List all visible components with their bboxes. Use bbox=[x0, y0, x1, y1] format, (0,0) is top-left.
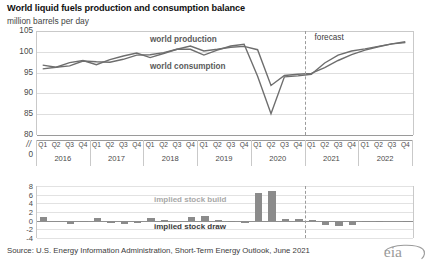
bar bbox=[349, 221, 357, 225]
bar bbox=[241, 221, 249, 223]
bar-chart: implied stock build implied stock draw bbox=[36, 186, 412, 238]
bar bbox=[94, 218, 102, 221]
gridline bbox=[37, 212, 413, 213]
bar bbox=[295, 219, 303, 221]
x-tick-quarter: Q4 bbox=[76, 141, 89, 148]
bar-y-tick-label: -4 bbox=[3, 234, 33, 243]
bar bbox=[147, 218, 155, 221]
stock-build-label: implied stock build bbox=[154, 195, 226, 204]
bar bbox=[40, 217, 48, 221]
x-tick-quarter: Q3 bbox=[63, 141, 76, 148]
bar-y-tick-label: 6 bbox=[3, 191, 33, 200]
x-tick-quarter: Q4 bbox=[130, 141, 143, 148]
y-tick-label: 100 bbox=[3, 47, 33, 56]
x-tick-quarter: Q1 bbox=[305, 141, 318, 148]
x-tick-quarter: Q1 bbox=[143, 141, 156, 148]
stock-draw-label: implied stock draw bbox=[154, 222, 226, 231]
chart-page: World liquid fuels production and consum… bbox=[0, 0, 436, 269]
bar-y-tick-label: 0 bbox=[3, 217, 33, 226]
x-tick-quarter: Q1 bbox=[251, 141, 264, 148]
x-tick-quarter: Q1 bbox=[36, 141, 49, 148]
x-tick-quarter: Q4 bbox=[399, 141, 412, 148]
x-tick-quarter: Q3 bbox=[278, 141, 291, 148]
year-separator bbox=[36, 140, 37, 166]
x-tick-quarter: Q1 bbox=[358, 141, 371, 148]
x-tick-quarter: Q2 bbox=[103, 141, 116, 148]
year-separator bbox=[197, 140, 198, 166]
eia-logo: eia bbox=[382, 240, 428, 264]
forecast-divider-line bbox=[305, 31, 306, 135]
bar-y-tick-label: 4 bbox=[3, 199, 33, 208]
bar bbox=[228, 221, 236, 222]
year-separator bbox=[90, 140, 91, 166]
bar-y-tick-label: 8 bbox=[3, 182, 33, 191]
x-tick-year: 2022 bbox=[358, 154, 412, 163]
bar bbox=[282, 219, 290, 220]
y-tick-label: 80 bbox=[3, 130, 33, 139]
x-tick-quarter: Q2 bbox=[264, 141, 277, 148]
bar bbox=[362, 221, 370, 222]
x-tick-quarter: Q4 bbox=[291, 141, 304, 148]
x-tick-quarter: Q2 bbox=[372, 141, 385, 148]
year-separator bbox=[358, 140, 359, 166]
forecast-label: forecast bbox=[315, 33, 344, 42]
bar bbox=[188, 217, 196, 220]
x-tick-year: 2017 bbox=[90, 154, 144, 163]
x-tick-year: 2021 bbox=[305, 154, 359, 163]
bar bbox=[268, 191, 276, 220]
production-label: world production bbox=[150, 35, 217, 44]
source-note: Source: U.S. Energy Information Administ… bbox=[7, 246, 310, 255]
gridline bbox=[37, 135, 413, 136]
axis-break-marker: // bbox=[26, 139, 31, 149]
gridline bbox=[37, 186, 413, 187]
x-tick-quarter: Q4 bbox=[184, 141, 197, 148]
x-tick-quarter: Q1 bbox=[90, 141, 103, 148]
bar-chart-y-axis: 86420-2-4 bbox=[0, 186, 33, 242]
bar bbox=[403, 221, 411, 222]
bar bbox=[134, 221, 142, 223]
bar bbox=[107, 221, 115, 224]
y-tick-label: 95 bbox=[3, 68, 33, 77]
bar bbox=[255, 193, 263, 221]
bar bbox=[309, 220, 317, 221]
x-axis: Q1Q2Q3Q4Q1Q2Q3Q4Q1Q2Q3Q4Q1Q2Q3Q4Q1Q2Q3Q4… bbox=[36, 141, 412, 175]
year-separator bbox=[251, 140, 252, 166]
bar-y-tick-label: -2 bbox=[3, 225, 33, 234]
x-tick-quarter: Q2 bbox=[318, 141, 331, 148]
bar-forecast-divider-line bbox=[305, 186, 306, 238]
x-tick-year: 2016 bbox=[36, 154, 90, 163]
x-tick-quarter: Q2 bbox=[49, 141, 62, 148]
bar bbox=[335, 221, 343, 227]
y-tick-label-zero: 0 bbox=[3, 150, 33, 159]
x-tick-quarter: Q3 bbox=[117, 141, 130, 148]
gridline bbox=[37, 238, 413, 239]
bar bbox=[215, 220, 223, 221]
x-tick-quarter: Q3 bbox=[331, 141, 344, 148]
x-tick-quarter: Q3 bbox=[224, 141, 237, 148]
x-tick-year: 2020 bbox=[251, 154, 305, 163]
x-tick-year: 2019 bbox=[197, 154, 251, 163]
line-chart-y-axis: 10510095908580//0 bbox=[0, 31, 33, 173]
bar bbox=[161, 220, 169, 221]
year-separator bbox=[143, 140, 144, 166]
bar bbox=[80, 221, 88, 222]
year-separator bbox=[305, 140, 306, 166]
bar bbox=[121, 221, 129, 224]
y-tick-label: 90 bbox=[3, 88, 33, 97]
series-world-consumption bbox=[43, 42, 406, 114]
y-tick-label: 85 bbox=[3, 109, 33, 118]
x-tick-year: 2018 bbox=[143, 154, 197, 163]
x-tick-quarter: Q2 bbox=[211, 141, 224, 148]
bar bbox=[376, 221, 384, 222]
line-chart: forecast world production world consumpt… bbox=[36, 31, 412, 135]
bar bbox=[67, 221, 75, 224]
year-separator bbox=[412, 140, 413, 166]
y-tick-label: 105 bbox=[3, 26, 33, 35]
x-tick-quarter: Q3 bbox=[385, 141, 398, 148]
page-title: World liquid fuels production and consum… bbox=[7, 3, 245, 13]
bar bbox=[322, 221, 330, 226]
bar-y-tick-label: 2 bbox=[3, 208, 33, 217]
x-tick-quarter: Q4 bbox=[237, 141, 250, 148]
bar bbox=[201, 216, 209, 220]
line-chart-series bbox=[36, 31, 412, 135]
